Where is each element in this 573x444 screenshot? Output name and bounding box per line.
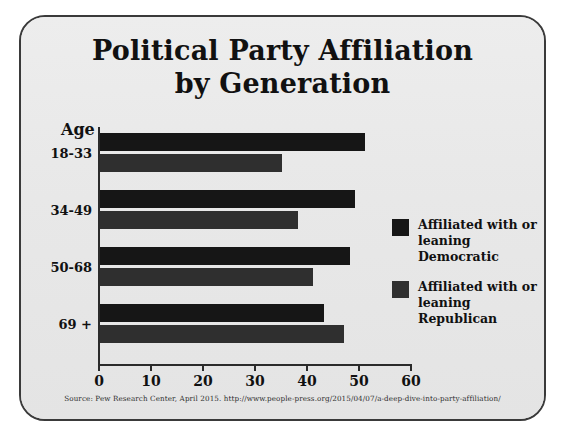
- x-axis-tick-label: 30: [245, 373, 264, 389]
- x-axis-tick: [150, 364, 152, 371]
- legend-swatch-democratic: [392, 219, 409, 236]
- x-axis-tick: [254, 364, 256, 371]
- category-label: 50-68: [26, 259, 92, 274]
- x-axis-tick-label: 0: [94, 373, 104, 389]
- page-title: Political Party Affiliation by Generatio…: [21, 35, 544, 101]
- bar-republican: [100, 211, 298, 229]
- legend-label-republican-line-2: leaning Republican: [418, 295, 497, 326]
- legend-item-republican: Affiliated with or leaning Republican: [392, 279, 542, 327]
- legend: Affiliated with or leaning Democratic Af…: [392, 217, 542, 341]
- bar-democratic: [100, 304, 324, 322]
- source-note: Source: Pew Research Center, April 2015.…: [21, 394, 544, 403]
- chart-screenshot: Political Party Affiliation by Generatio…: [0, 0, 573, 444]
- chart-card: Political Party Affiliation by Generatio…: [19, 15, 546, 421]
- x-axis-tick-label: 60: [401, 373, 420, 389]
- axis-category-header: Age: [61, 120, 95, 139]
- x-axis-tick-label: 10: [141, 373, 160, 389]
- legend-label-democratic-line-2: leaning Democratic: [418, 233, 499, 264]
- x-axis-tick-label: 40: [297, 373, 316, 389]
- x-axis-tick-label: 20: [193, 373, 212, 389]
- bar-democratic: [100, 247, 350, 265]
- legend-label-republican: Affiliated with or leaning Republican: [418, 279, 542, 327]
- category-label: 18-33: [26, 145, 92, 160]
- legend-swatch-republican: [392, 281, 409, 298]
- legend-label-republican-line-1: Affiliated with or: [418, 279, 537, 294]
- x-axis-tick: [202, 364, 204, 371]
- legend-label-democratic: Affiliated with or leaning Democratic: [418, 217, 542, 265]
- x-axis-tick: [410, 364, 412, 371]
- x-axis-tick: [98, 364, 100, 371]
- x-axis-tick: [306, 364, 308, 371]
- x-axis-tick-label: 50: [349, 373, 368, 389]
- category-label: 69 +: [26, 316, 92, 331]
- legend-item-democratic: Affiliated with or leaning Democratic: [392, 217, 542, 265]
- x-axis-tick: [358, 364, 360, 371]
- bar-democratic: [100, 133, 365, 151]
- category-label: 34-49: [26, 202, 92, 217]
- title-line-2: by Generation: [21, 68, 544, 101]
- legend-label-democratic-line-1: Affiliated with or: [418, 217, 537, 232]
- bar-republican: [100, 325, 344, 343]
- bar-republican: [100, 154, 282, 172]
- title-line-1: Political Party Affiliation: [92, 35, 473, 66]
- bar-republican: [100, 268, 313, 286]
- bar-democratic: [100, 190, 355, 208]
- plot-area: 010203040506018-3334-4950-6869 +: [98, 127, 428, 372]
